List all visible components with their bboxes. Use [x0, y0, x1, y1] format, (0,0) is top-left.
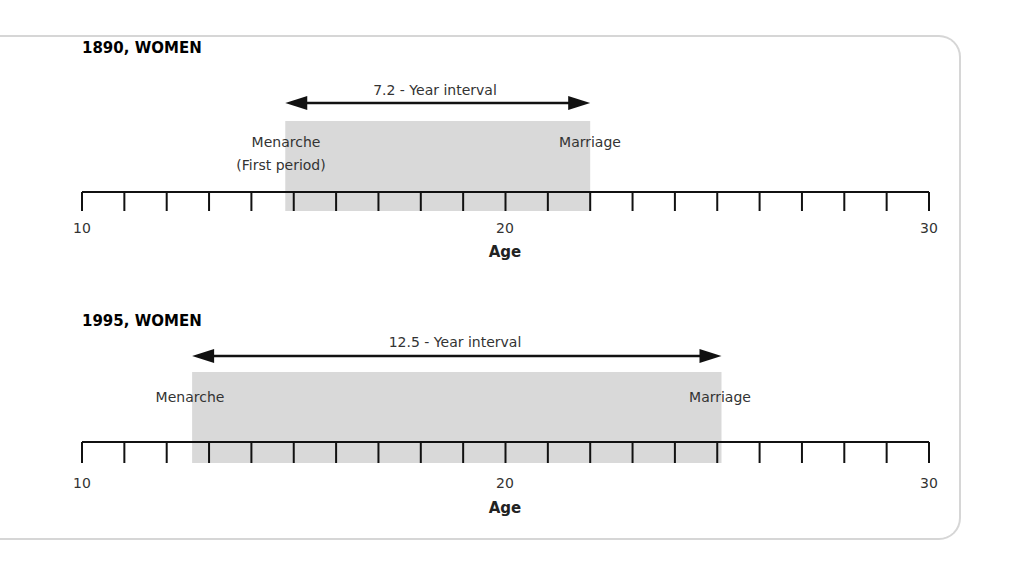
tick-label-10: 10 — [73, 475, 91, 491]
interval-label: 12.5 - Year interval — [389, 334, 522, 350]
arrow-left-icon — [192, 349, 214, 363]
arrow-left-icon — [285, 96, 307, 110]
age-axis — [82, 442, 929, 463]
panel-1995: 1995, WOMEN 12.5 - Year interval Menarch… — [73, 312, 938, 517]
tick-label-10: 10 — [73, 220, 91, 236]
start-sublabel: (First period) — [236, 157, 325, 173]
timeline-figure: 1890, WOMEN 7.2 - Year interval Menarche… — [0, 0, 1011, 566]
start-label: Menarche — [252, 134, 321, 150]
panel-title: 1890, WOMEN — [82, 39, 202, 57]
axis-label: Age — [489, 499, 522, 517]
tick-label-30: 30 — [920, 220, 938, 236]
end-label: Marriage — [689, 389, 751, 405]
end-label: Marriage — [559, 134, 621, 150]
interval-label: 7.2 - Year interval — [373, 82, 497, 98]
arrow-right-icon — [568, 96, 590, 110]
start-label: Menarche — [156, 389, 225, 405]
interval-shade — [192, 372, 721, 463]
panel-1890: 1890, WOMEN 7.2 - Year interval Menarche… — [73, 39, 938, 261]
axis-label: Age — [489, 243, 522, 261]
panel-title: 1995, WOMEN — [82, 312, 202, 330]
tick-label-30: 30 — [920, 475, 938, 491]
age-axis — [82, 192, 929, 211]
arrow-right-icon — [699, 349, 721, 363]
tick-label-20: 20 — [496, 220, 514, 236]
tick-label-20: 20 — [496, 475, 514, 491]
interval-shade — [285, 121, 590, 211]
